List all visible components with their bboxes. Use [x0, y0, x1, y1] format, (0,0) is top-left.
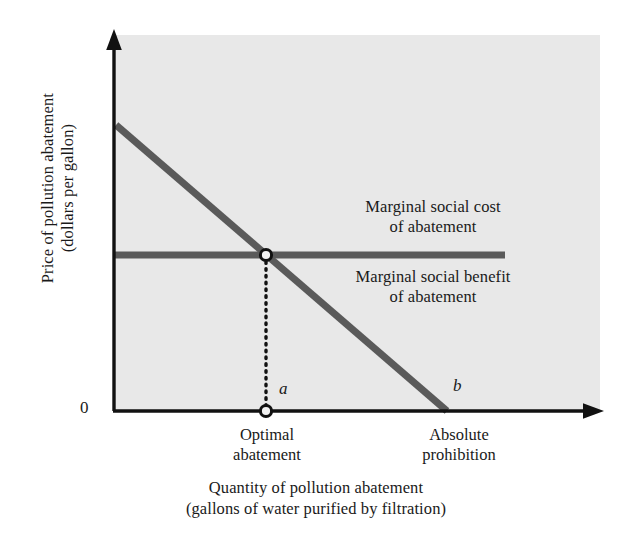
point-a-label: a [279, 379, 288, 399]
point-b-label: b [453, 376, 462, 396]
economics-figure: Price of pollution abatement (dollars pe… [0, 0, 630, 538]
x-axis-title: Quantity of pollution abatement (gallons… [60, 478, 572, 519]
equilibrium-point-marker [260, 249, 271, 260]
marginal-social-cost-label: Marginal social cost of abatement [332, 197, 534, 237]
optimal-abatement-point-marker [260, 405, 271, 416]
xtick-optimal-abatement: Optimal abatement [196, 425, 338, 465]
origin-label: 0 [80, 398, 89, 418]
marginal-social-benefit-label: Marginal social benefit of abatement [332, 267, 534, 307]
xtick-absolute-prohibition: Absolute prohibition [388, 425, 530, 465]
